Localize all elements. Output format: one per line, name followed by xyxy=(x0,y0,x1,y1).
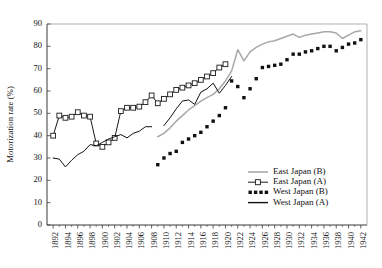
series-west-japan-b xyxy=(156,38,362,166)
data-point-marker xyxy=(181,141,184,144)
data-point-marker xyxy=(193,134,196,137)
legend-item-label: East Japan (B) xyxy=(273,166,325,176)
data-point-marker xyxy=(162,156,165,159)
data-point-marker xyxy=(63,115,68,120)
data-point-marker xyxy=(298,52,301,55)
legend-swatch-dot xyxy=(254,191,257,194)
data-point-marker xyxy=(230,79,233,82)
legend-item[interactable]: East Japan (A) xyxy=(248,176,326,186)
data-point-marker xyxy=(187,137,190,140)
data-point-marker xyxy=(162,96,167,101)
legend-item[interactable]: East Japan (B) xyxy=(248,166,325,176)
data-point-marker xyxy=(218,114,221,117)
data-point-marker xyxy=(168,152,171,155)
x-axis-tick-label: 1910 xyxy=(161,232,171,249)
x-axis-tick-label: 1904 xyxy=(124,231,134,249)
data-point-marker xyxy=(149,93,154,98)
x-axis-tick-label: 1906 xyxy=(136,232,146,249)
y-axis-tick-label: 30 xyxy=(34,152,43,162)
data-point-marker xyxy=(205,125,208,128)
legend-item-label: West Japan (A) xyxy=(273,197,328,207)
x-axis-tick-label: 1918 xyxy=(210,232,220,249)
data-point-marker xyxy=(316,47,319,50)
y-axis-tick-label: 80 xyxy=(34,40,43,50)
data-point-marker xyxy=(335,49,338,52)
x-axis-tick-label: 1916 xyxy=(198,232,208,249)
series-path xyxy=(164,76,232,125)
data-point-marker xyxy=(175,150,178,153)
data-point-marker xyxy=(198,77,203,82)
data-point-marker xyxy=(291,52,294,55)
data-point-marker xyxy=(347,42,350,45)
series-west-japan-a xyxy=(53,76,231,166)
data-point-marker xyxy=(242,96,245,99)
legend-swatch-open-square xyxy=(255,180,260,185)
y-axis-tick-label: 60 xyxy=(34,85,43,95)
data-point-marker xyxy=(69,114,74,119)
data-point-marker xyxy=(353,41,356,44)
y-axis-title: Motorization rate (%) xyxy=(5,86,15,163)
data-point-marker xyxy=(106,140,111,145)
data-point-marker xyxy=(285,58,288,61)
legend-item[interactable]: West Japan (B) xyxy=(249,186,328,196)
data-point-marker xyxy=(211,119,214,122)
data-point-marker xyxy=(82,113,87,118)
x-axis-tick-label: 1920 xyxy=(223,232,233,249)
y-axis-tick-label: 0 xyxy=(38,219,42,229)
chart-canvas: 0102030405060708090Motorization rate (%)… xyxy=(0,0,382,268)
data-point-marker xyxy=(328,45,331,48)
data-point-marker xyxy=(155,101,160,106)
data-point-marker xyxy=(255,77,258,80)
data-point-marker xyxy=(125,105,130,110)
data-point-marker xyxy=(211,71,216,76)
x-axis-tick-label: 1932 xyxy=(296,232,306,249)
x-axis-tick-label: 1936 xyxy=(321,232,331,249)
x-axis-tick-label: 1902 xyxy=(112,232,122,249)
x-axis-tick-label: 1894 xyxy=(63,231,73,249)
x-axis-tick-label: 1914 xyxy=(186,231,196,249)
data-point-marker xyxy=(341,46,344,49)
legend-swatch-dot xyxy=(265,191,268,194)
data-point-marker xyxy=(137,104,142,109)
data-point-marker xyxy=(236,85,239,88)
data-point-marker xyxy=(304,50,307,53)
data-point-marker xyxy=(273,64,276,67)
data-point-marker xyxy=(156,163,159,166)
data-point-marker xyxy=(174,87,179,92)
data-point-marker xyxy=(267,65,270,68)
data-point-marker xyxy=(143,100,148,105)
data-point-marker xyxy=(310,49,313,52)
y-axis-tick-label: 50 xyxy=(34,107,43,117)
x-axis-tick-label: 1924 xyxy=(247,231,257,249)
legend-swatch-dot xyxy=(249,191,252,194)
data-point-marker xyxy=(57,113,62,118)
data-point-marker xyxy=(180,85,185,90)
data-point-marker xyxy=(224,106,227,109)
x-axis-tick-label: 1922 xyxy=(235,232,245,249)
legend-item-label: East Japan (A) xyxy=(273,176,326,186)
data-point-marker xyxy=(223,62,228,67)
data-point-marker xyxy=(217,65,222,70)
x-axis-tick-label: 1940 xyxy=(346,232,356,249)
legend-swatch-dot xyxy=(259,191,262,194)
legend-item[interactable]: West Japan (A) xyxy=(248,197,328,207)
x-axis-tick-label: 1900 xyxy=(100,232,110,249)
x-axis-tick-label: 1892 xyxy=(50,232,60,249)
data-point-marker xyxy=(75,110,80,115)
data-point-marker xyxy=(51,133,56,138)
data-point-marker xyxy=(279,63,282,66)
x-axis-tick-label: 1934 xyxy=(309,231,319,249)
data-point-marker xyxy=(168,92,173,97)
series-east-japan-a xyxy=(51,62,228,149)
y-axis-tick-label: 90 xyxy=(34,18,43,28)
data-point-marker xyxy=(192,81,197,86)
x-axis-tick-label: 1896 xyxy=(75,232,85,249)
x-axis-tick-label: 1938 xyxy=(333,232,343,249)
y-axis-tick-label: 20 xyxy=(34,174,43,184)
y-axis-tick-label: 70 xyxy=(34,63,43,73)
motorization-rate-chart: 0102030405060708090Motorization rate (%)… xyxy=(0,0,382,268)
data-point-marker xyxy=(199,131,202,134)
data-point-marker xyxy=(88,114,93,119)
data-point-marker xyxy=(118,109,123,114)
x-axis-tick-label: 1912 xyxy=(173,232,183,249)
